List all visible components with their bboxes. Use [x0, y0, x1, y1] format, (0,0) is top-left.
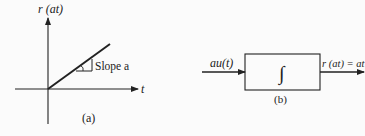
input-label: au(t)	[210, 56, 233, 70]
output-label: r (at) = at	[322, 58, 365, 70]
slope-angle-arc	[81, 66, 83, 71]
caption-a: (a)	[82, 111, 95, 125]
y-axis-label: r (at)	[38, 2, 63, 16]
integrator-block-diagram: au(t) ∫ r (at) = at (b)	[202, 54, 365, 106]
ramp-figure: r (at) t Slope a (a) au(t) ∫ r (at) = at…	[0, 0, 365, 136]
integral-symbol: ∫	[277, 62, 286, 86]
slope-label: Slope a	[95, 60, 129, 73]
caption-b: (b)	[274, 93, 287, 106]
x-axis-label: t	[141, 82, 145, 96]
slope-triangle	[76, 59, 92, 71]
ramp-plot: r (at) t Slope a (a)	[15, 2, 145, 125]
